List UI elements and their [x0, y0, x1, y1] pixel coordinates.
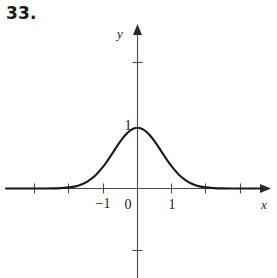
graph-plot: y x −1 0 1 1: [0, 0, 277, 278]
y-axis-label: y: [115, 26, 123, 41]
y-axis-arrow-icon: [133, 24, 142, 35]
bell-curve-path: [6, 128, 262, 189]
x-tick-label-minus-one: −1: [96, 196, 111, 211]
x-axis-label: x: [260, 197, 267, 212]
y-tick-label-one: 1: [125, 118, 132, 133]
x-tick-label-one: 1: [169, 197, 176, 212]
origin-label: 0: [125, 197, 132, 212]
exercise-figure: 33. y x −1 0 1 1: [0, 0, 277, 278]
